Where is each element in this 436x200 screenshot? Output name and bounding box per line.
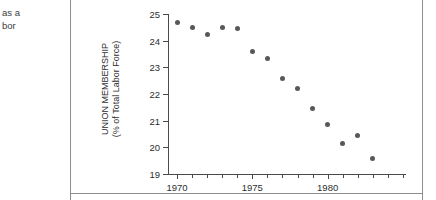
x-axis-tick xyxy=(192,174,193,178)
y-axis-tick-label: 21 xyxy=(149,115,160,126)
y-axis-tick xyxy=(163,41,168,42)
x-axis-tick xyxy=(388,174,389,178)
union-membership-figure: UNION MEMBERSHIP (% of Total Labor Force… xyxy=(70,0,422,200)
x-axis-tick xyxy=(282,174,283,178)
data-point xyxy=(175,20,180,25)
caption-fragment-line-1: as a xyxy=(2,6,58,19)
data-point xyxy=(265,56,270,61)
x-axis-tick xyxy=(373,174,374,178)
x-axis-tick-label: 1980 xyxy=(317,182,338,193)
x-axis-tick xyxy=(252,174,253,179)
x-axis-tick xyxy=(222,174,223,178)
y-axis-tick xyxy=(163,174,168,175)
caption-fragment-line-2: bor xyxy=(2,19,58,32)
x-axis-tick xyxy=(313,174,314,178)
y-axis-tick xyxy=(163,94,168,95)
y-axis-tick xyxy=(163,147,168,148)
x-axis-tick-label: 1970 xyxy=(166,182,187,193)
x-axis-tick xyxy=(358,174,359,178)
x-axis-line xyxy=(168,174,406,175)
page-rule-right xyxy=(422,0,423,200)
scatter-plot-area: 19202122232425 197019751980 xyxy=(168,14,406,174)
x-axis-tick xyxy=(207,174,208,178)
x-axis-tick xyxy=(298,174,299,178)
y-axis-title: UNION MEMBERSHIP (% of Total Labor Force… xyxy=(100,9,122,169)
data-point xyxy=(235,26,240,31)
x-axis-tick xyxy=(177,174,178,179)
data-point xyxy=(220,25,225,30)
data-point xyxy=(205,32,210,37)
y-axis-tick-label: 24 xyxy=(149,35,160,46)
y-axis-line xyxy=(168,14,169,174)
data-point xyxy=(355,133,360,138)
x-axis-tick xyxy=(267,174,268,178)
y-axis-tick xyxy=(163,14,168,15)
x-axis-tick xyxy=(403,174,404,178)
x-axis-tick xyxy=(343,174,344,178)
data-point xyxy=(295,86,300,91)
data-point xyxy=(325,122,330,127)
x-axis-tick xyxy=(328,174,329,179)
y-axis-tick-label: 23 xyxy=(149,62,160,73)
y-axis-tick xyxy=(163,67,168,68)
data-point xyxy=(190,25,195,30)
x-axis-tick-label: 1975 xyxy=(242,182,263,193)
data-point xyxy=(280,76,285,81)
y-axis-tick xyxy=(163,121,168,122)
data-point xyxy=(250,49,255,54)
y-axis-tick-label: 25 xyxy=(149,9,160,20)
data-point xyxy=(370,156,375,161)
y-axis-tick-label: 19 xyxy=(149,169,160,180)
y-axis-tick-label: 20 xyxy=(149,142,160,153)
caption-fragment: as a bor xyxy=(2,6,58,32)
data-point xyxy=(340,141,345,146)
y-axis-tick-label: 22 xyxy=(149,89,160,100)
x-axis-tick xyxy=(237,174,238,178)
data-point xyxy=(310,106,315,111)
y-axis-title-text: UNION MEMBERSHIP (% of Total Labor Force… xyxy=(100,41,121,137)
